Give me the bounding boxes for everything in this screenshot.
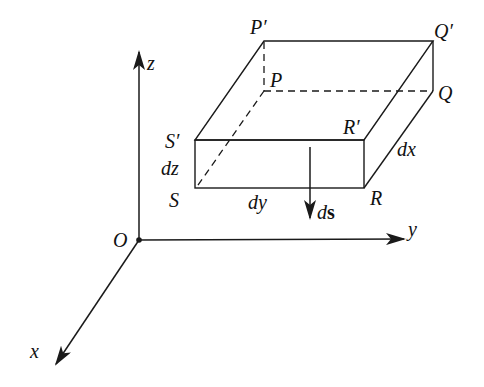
label-Q-prime: Q′ bbox=[434, 20, 453, 42]
label-R: R bbox=[369, 187, 382, 209]
x-axis bbox=[56, 240, 139, 364]
label-origin: O bbox=[113, 229, 127, 251]
label-x-axis: x bbox=[29, 340, 39, 362]
label-y-axis: y bbox=[406, 218, 417, 241]
box-hidden-edges bbox=[196, 42, 433, 188]
label-S: S bbox=[169, 189, 179, 211]
label-S-prime: S′ bbox=[165, 130, 180, 152]
label-dz: dz bbox=[161, 157, 179, 179]
label-Q: Q bbox=[438, 82, 453, 104]
front-face bbox=[195, 140, 364, 188]
box-visible-edges bbox=[195, 41, 433, 188]
label-z-axis: z bbox=[146, 52, 155, 74]
label-R-prime: R′ bbox=[342, 116, 360, 138]
box-element-diagram: z y x O P′ P Q′ Q R′ R S′ S dx dy dz ds bbox=[0, 0, 484, 387]
coordinate-axes bbox=[56, 52, 404, 364]
label-ds-s: s bbox=[327, 201, 335, 223]
label-P: P bbox=[269, 69, 282, 91]
label-ds: ds bbox=[317, 201, 335, 223]
origin-point bbox=[136, 237, 142, 243]
label-dy: dy bbox=[248, 191, 267, 214]
label-dx: dx bbox=[397, 138, 416, 160]
label-P-prime: P′ bbox=[249, 16, 267, 38]
y-axis bbox=[139, 239, 404, 240]
